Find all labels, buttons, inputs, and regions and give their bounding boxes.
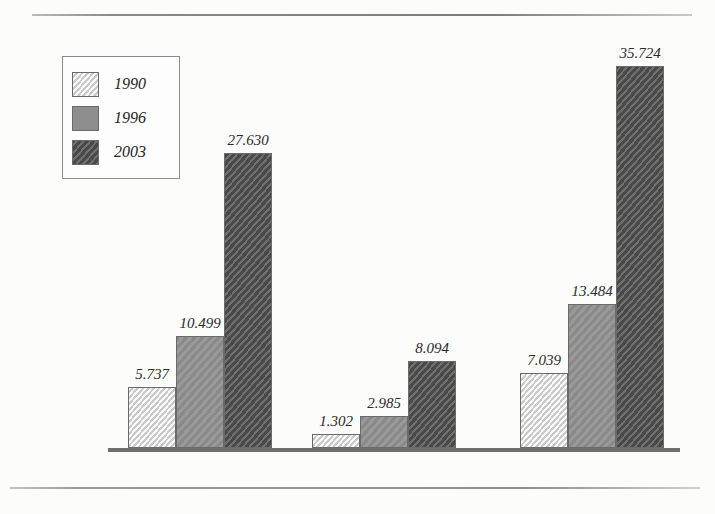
bar-column: 35.724 bbox=[616, 66, 664, 448]
bar-mestrado-1990: 5.737 bbox=[128, 387, 176, 448]
bar-doutorado-1996: 2.985 bbox=[360, 416, 408, 448]
bar-total-1990: 7.039 bbox=[520, 373, 568, 448]
legend-swatch-2003 bbox=[72, 140, 99, 165]
bar-total-2003: 35.724 bbox=[616, 66, 664, 448]
bar-group-total: 7.03913.48435.724Total bbox=[520, 66, 664, 514]
bar-group-bars: 7.03913.48435.724 bbox=[520, 66, 664, 448]
legend-swatch-1996 bbox=[72, 106, 99, 131]
bar-column: 8.094 bbox=[408, 361, 456, 448]
bar-value-label: 8.094 bbox=[415, 340, 449, 357]
legend-item-label: 1996 bbox=[114, 109, 146, 127]
legend-item-label: 2003 bbox=[114, 143, 146, 161]
bar-column: 2.985 bbox=[360, 416, 408, 448]
legend-swatch-1990 bbox=[72, 72, 99, 97]
legend-item: 1990 bbox=[72, 67, 171, 101]
bar-value-label: 10.499 bbox=[179, 315, 220, 332]
bar-column: 7.039 bbox=[520, 373, 568, 448]
bar-value-label: 27.630 bbox=[227, 132, 268, 149]
bar-column: 5.737 bbox=[128, 387, 176, 448]
bar-value-label: 13.484 bbox=[571, 283, 612, 300]
bar-column: 27.630 bbox=[224, 153, 272, 448]
bar-mestrado-1996: 10.499 bbox=[176, 336, 224, 448]
bar-value-label: 35.724 bbox=[619, 45, 660, 62]
bar-column: 13.484 bbox=[568, 304, 616, 448]
bar-column: 1.302 bbox=[312, 434, 360, 448]
bar-group-doutorado: 1.3022.9858.094Doutorado bbox=[312, 66, 456, 514]
bar-value-label: 7.039 bbox=[527, 352, 561, 369]
bar-mestrado-2003: 27.630 bbox=[224, 153, 272, 448]
bar-column: 10.499 bbox=[176, 336, 224, 448]
bar-doutorado-1990: 1.302 bbox=[312, 434, 360, 448]
legend-item-label: 1990 bbox=[114, 75, 146, 93]
bar-total-1996: 13.484 bbox=[568, 304, 616, 448]
chart-legend: 199019962003 bbox=[62, 56, 180, 179]
legend-item: 2003 bbox=[72, 135, 171, 169]
bar-value-label: 2.985 bbox=[367, 395, 401, 412]
legend-item: 1996 bbox=[72, 101, 171, 135]
bar-group-bars: 1.3022.9858.094 bbox=[312, 66, 456, 448]
bar-value-label: 1.302 bbox=[319, 413, 353, 430]
bar-doutorado-2003: 8.094 bbox=[408, 361, 456, 448]
bar-value-label: 5.737 bbox=[135, 366, 169, 383]
